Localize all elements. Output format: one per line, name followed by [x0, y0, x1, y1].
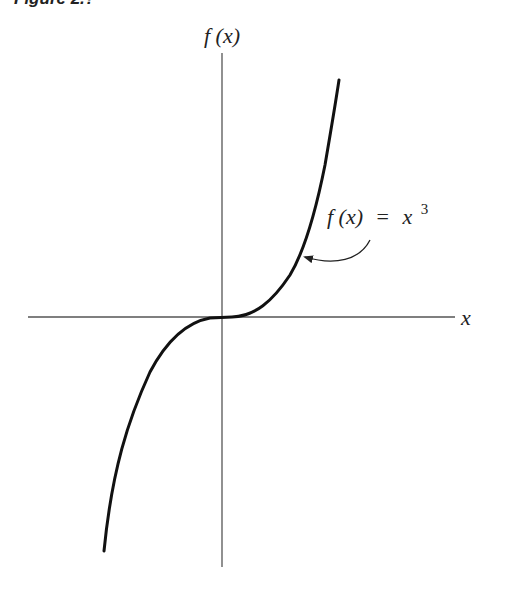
cubic-plot: f (x) x f (x) = x 3	[0, 0, 509, 591]
x-axis-label: x	[460, 305, 471, 330]
y-axis-label: f (x)	[204, 23, 240, 48]
annotation-arrow	[305, 240, 370, 261]
function-label: f (x) = x 3	[327, 201, 428, 229]
